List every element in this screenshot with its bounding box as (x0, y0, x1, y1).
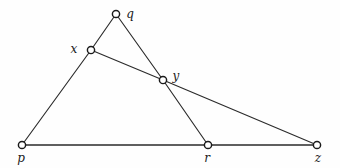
vertex-node-p[interactable] (18, 141, 25, 148)
vertex-node-y[interactable] (159, 76, 166, 83)
edges-group (22, 14, 317, 145)
edge-q-x (91, 14, 116, 50)
vertex-node-r[interactable] (204, 141, 211, 148)
graph-diagram: qxyprz (0, 0, 340, 168)
vertex-label-x: x (71, 43, 78, 55)
graph-canvas (0, 0, 340, 168)
vertex-label-r: r (204, 152, 210, 164)
vertex-node-x[interactable] (87, 46, 94, 53)
vertex-label-p: p (17, 152, 25, 164)
vertex-label-z: z (315, 152, 321, 164)
vertex-label-q: q (126, 8, 134, 20)
vertex-node-z[interactable] (313, 141, 320, 148)
vertex-node-q[interactable] (112, 10, 119, 17)
edge-x-p (22, 50, 91, 145)
vertex-label-y: y (173, 70, 180, 82)
